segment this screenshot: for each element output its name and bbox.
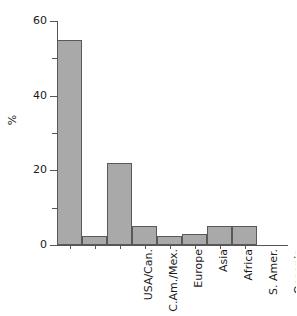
bar — [57, 40, 82, 245]
x-category-label: USA/Can. — [142, 249, 156, 315]
bar — [132, 226, 157, 245]
bar-series — [57, 21, 288, 245]
y-tick-label: 0 — [7, 239, 47, 250]
x-axis-line — [57, 245, 288, 246]
x-axis-category-labels: USA/Can.C.Am./Mex.EuropeAsiaAfricaS. Ame… — [57, 249, 288, 315]
plot-area — [57, 21, 288, 245]
bar — [157, 236, 182, 245]
y-tick-major — [50, 96, 57, 97]
x-category-label: Europe — [192, 249, 206, 315]
bar-chart: % 0204060 USA/Can.C.Am./Mex.EuropeAsiaAf… — [0, 0, 296, 316]
y-tick-label: 40 — [7, 90, 47, 101]
x-category-label: Asia — [217, 249, 231, 315]
y-tick-major — [50, 21, 57, 22]
x-category-label: C.Am./Mex. — [167, 249, 181, 315]
x-category-label: Oceania — [292, 249, 297, 315]
y-tick-major — [50, 170, 57, 171]
y-tick-label: 20 — [7, 164, 47, 175]
x-category-label: S. Amer. — [267, 249, 281, 315]
y-axis-title: % — [0, 110, 24, 130]
y-tick-label: 60 — [7, 15, 47, 26]
bar — [232, 226, 257, 245]
bar — [207, 226, 232, 245]
y-tick-major — [50, 245, 57, 246]
x-category-label: Africa — [242, 249, 256, 315]
bar — [82, 236, 107, 245]
bar — [182, 234, 207, 245]
bar — [107, 163, 132, 245]
